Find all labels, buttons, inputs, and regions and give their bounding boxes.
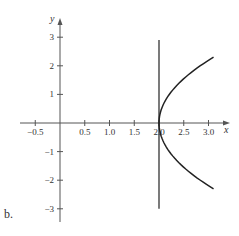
chart-plot: xy −0.50.51.01.52.02.53.0321−1−2−3 (0, 0, 239, 236)
y-tick-label: −3 (44, 204, 54, 214)
y-tick-label: −1 (44, 147, 54, 157)
y-tick-label: 1 (50, 89, 55, 99)
y-tick-label: 3 (50, 32, 55, 42)
x-tick-label: 3.0 (203, 127, 215, 137)
y-axis-label: y (49, 13, 55, 24)
x-tick-label: −0.5 (27, 127, 44, 137)
series (159, 40, 214, 209)
x-tick-label: 0.5 (79, 127, 91, 137)
y-axis-arrow-icon (58, 18, 63, 25)
y-tick-label: −2 (44, 175, 54, 185)
y-tick-label: 2 (50, 61, 55, 71)
x-tick-label: 1.5 (129, 127, 141, 137)
axes: xy (20, 13, 230, 222)
x-axis-label: x (223, 124, 229, 135)
x-tick-label: 1.0 (104, 127, 116, 137)
x-tick-label: 2.5 (178, 127, 190, 137)
panel-label: b. (4, 207, 13, 222)
